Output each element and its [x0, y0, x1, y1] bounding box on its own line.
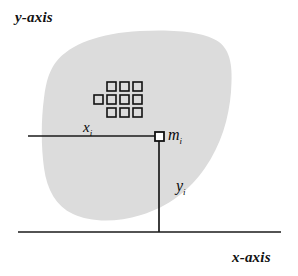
x-axis-label: x-axis	[232, 249, 271, 266]
mi-label-subscript: i	[180, 136, 183, 146]
xi-label: xi	[83, 119, 92, 138]
y-axis-label: y-axis	[15, 9, 53, 26]
yi-label: yi	[176, 177, 186, 197]
yi-label-subscript: i	[183, 187, 186, 197]
diagram-canvas	[0, 0, 298, 276]
mass-element-marker	[155, 132, 164, 141]
plane-area-shape	[42, 30, 232, 220]
mi-label-base: m	[168, 126, 180, 143]
figure-diagram: y-axis x-axis xi mi yi	[0, 0, 298, 276]
mi-label: mi	[168, 126, 182, 146]
xi-label-base: x	[83, 119, 90, 135]
xi-label-subscript: i	[90, 128, 93, 138]
